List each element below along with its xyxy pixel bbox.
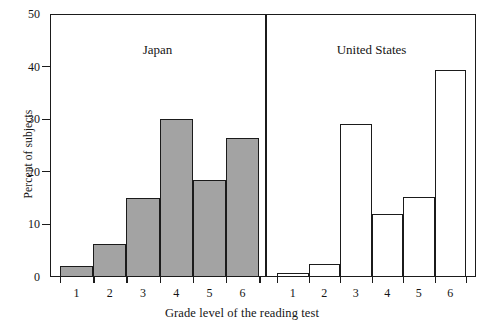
bar-japan-grade-6 [226,138,259,277]
x-tick-label-japan-5: 5 [199,287,219,300]
x-tick-0-2 [126,277,127,283]
bar-japan-grade-2 [93,244,126,277]
y-tick-10 [42,224,51,225]
x-tick-0-5 [226,277,227,283]
x-tick-1-5 [435,277,436,283]
x-tick-1-1 [309,277,310,283]
x-tick-0-1 [93,277,94,283]
bar-united-states-grade-3 [340,124,372,277]
x-tick-label-united-states-6: 6 [440,287,460,300]
x-tick-label-united-states-1: 1 [283,287,303,300]
panel-title-united-states: United States [267,42,476,58]
x-tick-label-japan-2: 2 [100,287,120,300]
x-tick-1-4 [403,277,404,283]
y-tick-20 [42,171,51,172]
y-axis-title: Percent of subjects [22,74,34,234]
bar-united-states-grade-2 [309,264,341,277]
x-tick-1-2 [340,277,341,283]
y-tick-label-30: 30 [10,113,40,125]
y-tick-label-50: 50 [10,8,40,20]
y-tick-label-20: 20 [10,166,40,178]
x-tick-1-0 [277,277,278,283]
bar-united-states-grade-6 [435,70,467,277]
x-tick-1-3 [372,277,373,283]
y-tick-40 [42,66,51,67]
y-tick-label-40: 40 [10,61,40,73]
x-tick-label-japan-4: 4 [166,287,186,300]
bar-japan-grade-4 [160,119,193,277]
x-tick-0-4 [193,277,194,283]
x-axis-title: Grade level of the reading test [0,306,484,321]
x-tick-label-united-states-4: 4 [377,287,397,300]
x-tick-0-0 [60,277,61,283]
y-tick-label-0: 0 [10,271,40,283]
y-tick-label-10: 10 [10,218,40,230]
x-tick-label-japan-6: 6 [233,287,253,300]
x-tick-label-united-states-5: 5 [409,287,429,300]
y-tick-30 [42,119,51,120]
bar-japan-grade-5 [193,180,226,277]
x-tick-0-3 [160,277,161,283]
histogram-figure: Percent of subjects 01020304050 12345612… [0,0,484,333]
panel-title-japan: Japan [50,42,265,58]
bar-united-states-grade-5 [403,197,435,277]
bar-japan-grade-1 [60,266,93,277]
x-tick-label-united-states-2: 2 [314,287,334,300]
x-tick-label-united-states-3: 3 [346,287,366,300]
x-tick-end-0 [259,277,260,283]
x-tick-label-japan-3: 3 [133,287,153,300]
bar-japan-grade-3 [126,198,159,277]
bar-united-states-grade-4 [372,214,404,277]
bar-united-states-grade-1 [277,273,309,277]
x-tick-end-1 [466,277,467,283]
x-tick-label-japan-1: 1 [67,287,87,300]
